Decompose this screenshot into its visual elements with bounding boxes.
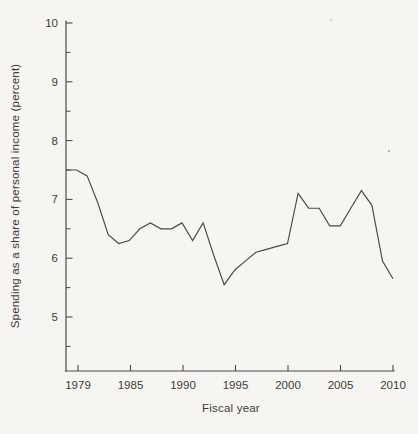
y-tick-label: 7 (52, 193, 58, 205)
x-tick-label: 1990 (170, 379, 196, 391)
x-tick-label: 1985 (118, 379, 144, 391)
data-line (66, 170, 393, 285)
y-tick-label: 8 (52, 135, 58, 147)
line-chart: 5678910 1979198519901995200020052010 Spe… (0, 0, 418, 434)
scan-speck (388, 150, 390, 152)
scanned-page: 5678910 1979198519901995200020052010 Spe… (0, 0, 418, 434)
y-axis-ticks: 5678910 (45, 17, 72, 346)
x-tick-label: 1995 (223, 379, 249, 391)
scan-speck (330, 19, 332, 21)
x-tick-label: 1979 (65, 379, 91, 391)
y-axis-title: Spending as a share of personal income (… (9, 64, 21, 329)
y-tick-label: 10 (45, 17, 58, 29)
x-axis-ticks: 1979198519901995200020052010 (65, 365, 406, 391)
x-tick-label: 2005 (328, 379, 354, 391)
x-axis-title: Fiscal year (202, 402, 260, 414)
y-tick-label: 6 (52, 252, 58, 264)
y-tick-label: 9 (52, 76, 58, 88)
x-tick-label: 2010 (380, 379, 406, 391)
x-tick-label: 2000 (275, 379, 301, 391)
y-tick-label: 5 (52, 311, 58, 323)
